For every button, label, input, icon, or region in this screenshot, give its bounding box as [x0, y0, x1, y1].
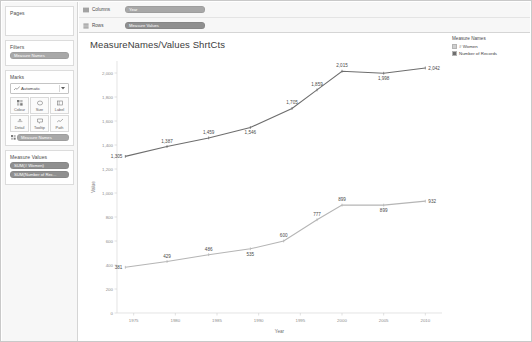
- measure-values-pill-records[interactable]: SUM(Number of Rec...: [10, 171, 69, 178]
- svg-text:535: 535: [246, 252, 254, 257]
- svg-text:1,000: 1,000: [102, 191, 114, 196]
- legend-item-label: Number of Records: [459, 51, 497, 56]
- svg-text:1,200: 1,200: [102, 167, 114, 172]
- legend-swatch: [452, 44, 457, 49]
- svg-text:1,305: 1,305: [111, 154, 123, 159]
- svg-text:1,800: 1,800: [102, 95, 114, 100]
- label-icon: [57, 100, 63, 107]
- svg-text:381: 381: [115, 265, 123, 270]
- svg-text:1980: 1980: [170, 318, 180, 323]
- colour-icon: [17, 100, 23, 107]
- svg-text:Year: Year: [275, 329, 285, 334]
- page-title: MeasureNames/Values ShrtCts: [90, 39, 225, 50]
- shelves-area: Columns Year Rows Measure Values: [79, 2, 530, 33]
- svg-text:2,015: 2,015: [336, 63, 348, 68]
- marks-card-title: Marks: [6, 71, 73, 82]
- chevron-down-icon[interactable]: [59, 85, 66, 92]
- svg-text:932: 932: [428, 199, 436, 204]
- svg-text:1,387: 1,387: [161, 139, 173, 144]
- rows-icon: [82, 22, 90, 30]
- svg-text:1,459: 1,459: [203, 130, 215, 135]
- path-icon: [57, 118, 63, 125]
- svg-text:1995: 1995: [295, 318, 305, 323]
- mark-button-detail[interactable]: Detail: [10, 115, 29, 132]
- svg-text:1975: 1975: [129, 318, 139, 323]
- svg-text:600: 600: [280, 233, 288, 238]
- svg-text:2000: 2000: [337, 318, 347, 323]
- measure-values-pill-women[interactable]: SUM(# Women): [10, 162, 69, 169]
- mark-button-tooltip-label: Tooltip: [34, 126, 45, 130]
- rows-pill-measure-values[interactable]: Measure Values: [125, 22, 205, 29]
- marks-card: Marks Automatic: [5, 70, 74, 146]
- svg-text:1,998: 1,998: [378, 76, 390, 81]
- filters-card: Filters Measure Names: [5, 40, 74, 66]
- filters-card-title: Filters: [6, 41, 73, 52]
- line-chart-plot[interactable]: 02004006008001,0001,2001,4001,6001,8002,…: [79, 53, 448, 340]
- svg-text:1,400: 1,400: [102, 143, 114, 148]
- viz-canvas: MeasureNames/Values ShrtCts Measure Name…: [79, 33, 530, 340]
- legend-swatch: [452, 51, 457, 56]
- columns-shelf[interactable]: Columns Year: [79, 2, 530, 17]
- size-icon: [37, 100, 43, 107]
- colour-legend: Measure Names # Women Number of Records: [452, 36, 526, 57]
- legend-item-women[interactable]: # Women: [452, 43, 526, 50]
- mark-button-detail-label: Detail: [15, 126, 25, 130]
- rows-shelf-label: Rows: [90, 23, 125, 28]
- mark-encoding-buttons: Colour Size Label: [10, 97, 69, 132]
- svg-text:429: 429: [163, 254, 171, 259]
- columns-pill-year[interactable]: Year: [125, 6, 205, 13]
- svg-text:1,546: 1,546: [245, 130, 257, 135]
- legend-item-number-of-records[interactable]: Number of Records: [452, 50, 526, 57]
- marks-sidebar: Pages Filters Measure Names Marks Automa…: [2, 2, 78, 341]
- legend-item-label: # Women: [459, 44, 478, 49]
- marks-encoding-row: Measure Names: [10, 134, 69, 141]
- svg-text:2010: 2010: [420, 318, 430, 323]
- mark-button-size-label: Size: [36, 108, 43, 112]
- svg-text:486: 486: [205, 247, 213, 252]
- mark-button-tooltip[interactable]: Tooltip: [30, 115, 49, 132]
- columns-icon: [82, 6, 90, 14]
- svg-text:777: 777: [313, 212, 321, 217]
- measure-values-card-title: Measure Values: [6, 151, 73, 162]
- tableau-worksheet-window: Pages Filters Measure Names Marks Automa…: [0, 0, 532, 342]
- mark-type-label: Automatic: [20, 86, 59, 91]
- mark-button-path[interactable]: Path: [50, 115, 69, 132]
- svg-text:600: 600: [106, 239, 114, 244]
- svg-text:899: 899: [338, 197, 346, 202]
- detail-icon: [17, 118, 23, 125]
- legend-title: Measure Names: [452, 36, 526, 43]
- svg-text:2,000: 2,000: [102, 71, 114, 76]
- mark-type-dropdown[interactable]: Automatic: [10, 83, 69, 94]
- pages-card: Pages: [5, 6, 74, 36]
- svg-text:200: 200: [106, 287, 114, 292]
- rows-shelf[interactable]: Rows Measure Values: [79, 17, 530, 33]
- columns-shelf-label: Columns: [90, 7, 125, 12]
- svg-text:1,600: 1,600: [102, 119, 114, 124]
- svg-text:2005: 2005: [379, 318, 389, 323]
- svg-text:1985: 1985: [212, 318, 222, 323]
- mark-button-colour[interactable]: Colour: [10, 97, 29, 114]
- mark-button-label-label: Label: [55, 108, 64, 112]
- mark-button-size[interactable]: Size: [30, 97, 49, 114]
- svg-text:1,859: 1,859: [311, 82, 323, 87]
- mark-button-label[interactable]: Label: [50, 97, 69, 114]
- svg-text:0: 0: [111, 311, 114, 316]
- svg-text:400: 400: [106, 263, 114, 268]
- svg-text:800: 800: [106, 215, 114, 220]
- mark-button-colour-label: Colour: [14, 108, 25, 112]
- mark-button-path-label: Path: [56, 126, 64, 130]
- measure-values-card: Measure Values SUM(# Women) SUM(Number o…: [5, 150, 74, 185]
- filter-pill-measure-names[interactable]: Measure Names: [10, 52, 69, 59]
- svg-text:1,705: 1,705: [286, 100, 298, 105]
- marks-pill-measure-names[interactable]: Measure Names: [17, 134, 69, 141]
- svg-text:899: 899: [380, 208, 388, 213]
- svg-text:2,042: 2,042: [428, 66, 440, 71]
- colour-icon: [10, 135, 16, 141]
- line-chart-icon: [13, 85, 20, 92]
- chart-svg: 02004006008001,0001,2001,4001,6001,8002,…: [79, 53, 448, 340]
- svg-text:1990: 1990: [254, 318, 264, 323]
- tooltip-icon: [37, 118, 43, 125]
- pages-card-title: Pages: [6, 7, 73, 18]
- svg-text:Value: Value: [91, 181, 96, 193]
